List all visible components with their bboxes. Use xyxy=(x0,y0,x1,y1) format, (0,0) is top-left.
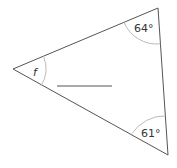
angle-label-left: f xyxy=(33,66,39,79)
angle-label-top-right: 64° xyxy=(134,22,154,35)
angle-label-bottom-right: 61° xyxy=(141,127,161,140)
angle-arc-left xyxy=(41,56,46,86)
triangle-diagram: f 64° 61° xyxy=(0,0,177,168)
triangle-svg: f 64° 61° xyxy=(0,0,177,168)
